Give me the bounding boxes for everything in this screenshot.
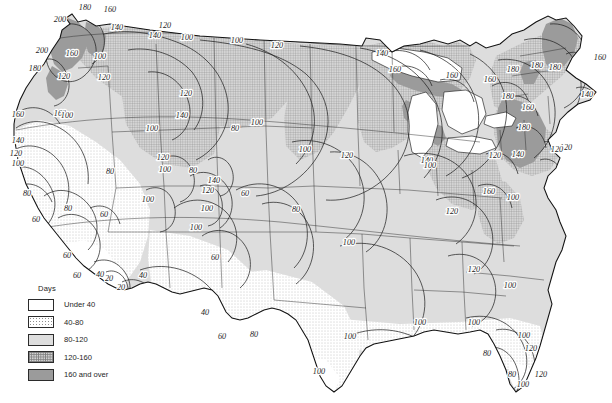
contour-label: 100 [504,281,516,290]
contour-label: 160 [484,75,496,84]
contour-label: 100 [201,204,213,213]
contour-label: 100 [343,238,355,247]
contour-label: 100 [190,223,202,232]
contour-label: 140 [512,150,524,159]
contour-label: 160 [522,103,534,112]
contour-label: 20 [105,274,113,283]
contour-label: 60 [241,189,249,198]
contour-label: 140 [176,111,188,120]
legend-swatch [28,316,54,328]
contour-label: 100 [61,111,73,120]
contour-label: 100 [12,159,24,168]
contour-label: 120 [58,72,70,81]
contour-label: 120 [98,73,110,82]
contour-label: 180 [507,65,519,74]
legend-item: 120-160 [28,350,146,365]
legend-label: 160 and over [64,370,108,379]
legend-item: Under 40 [28,297,146,312]
legend-label: 80-120 [64,335,88,344]
contour-label: 200 [54,15,66,24]
contour-label: 40 [96,270,104,279]
map-figure: 1801801601602002001401401201201401401001… [0,0,612,403]
contour-label: 120 [446,207,458,216]
contour-label: 60 [100,210,108,219]
contour-label: 100 [299,145,311,154]
contour-label: 120 [468,265,480,274]
contour-label: 160 [12,110,24,119]
contour-label: 60 [32,215,40,224]
contour-label: 80 [64,204,72,213]
contour-label: 120 [10,149,22,158]
legend-rows: Under 4040-8080-120120-160160 and over [28,297,146,382]
contour-label: 80 [250,330,258,339]
contour-label: 100 [507,193,519,202]
contour-label: 140 [149,31,161,40]
legend-item: 40-80 [28,315,146,330]
contour-label: 180 [79,3,91,12]
legend-swatch [28,299,54,311]
contour-label: 120 [551,145,563,154]
contour-label: 120 [341,151,353,160]
legend-item: 160 and over [28,367,146,382]
contour-label: 180 [502,92,514,101]
contour-label: 160 [389,65,401,74]
contour-label: 160 [66,49,78,58]
contour-label: 120 [202,186,214,195]
contour-label: 120 [271,41,283,50]
legend-label: 40-80 [64,318,83,327]
contour-label: 140 [581,90,593,99]
contour-label: 60 [63,251,71,260]
legend-label: Under 40 [64,300,95,309]
contour-label: 160 [483,187,495,196]
contour-label: 60 [211,253,219,262]
contour-label: 100 [146,124,158,133]
contour-label: 40 [139,271,147,280]
contour-label: 120 [180,89,192,98]
contour-label: 100 [468,318,480,327]
contour-label: 140 [12,136,24,145]
contour-label: 180 [518,123,530,132]
legend-swatch [28,369,54,381]
contour-label: 60 [218,332,226,341]
contour-label: 80 [483,349,491,358]
legend-swatch [28,351,54,363]
contour-label: 80 [106,167,114,176]
contour-label: 180 [549,63,561,72]
contour-label: 100 [181,33,193,42]
contour-label: 80 [189,166,197,175]
contour-label: 80 [292,205,300,214]
contour-label: 160 [594,53,606,62]
contour-label: 140 [208,176,220,185]
contour-label: 100 [142,195,154,204]
contour-label: 80 [231,124,239,133]
contour-label: 80 [23,189,31,198]
legend: Days Under 4040-8080-120120-160160 and o… [28,284,146,385]
contour-label: 120 [157,153,169,162]
contour-label: 180 [29,64,41,73]
contour-label: 100 [424,161,436,170]
contour-label: 60 [73,271,81,280]
contour-label: 140 [111,23,123,32]
contour-label: 100 [251,118,263,127]
contour-label: 80 [508,370,516,379]
contour-label: 100 [94,52,106,61]
legend-label: 120-160 [64,353,92,362]
contour-label: 140 [376,49,388,58]
contour-label: 200 [36,46,48,55]
contour-label: 100 [344,332,356,341]
contour-label: 100 [518,331,530,340]
contour-label: 100 [159,165,171,174]
contour-label: 120 [525,344,537,353]
contour-label: 120 [535,370,547,379]
contour-label: 120 [489,151,501,160]
legend-title: Days [38,284,146,293]
contour-label: 160 [104,5,116,14]
contour-label: 180 [531,61,543,70]
contour-label: 120 [159,21,171,30]
contour-label: 100 [517,380,529,389]
contour-label: 160 [446,71,458,80]
legend-item: 80-120 [28,332,146,347]
contour-label: 100 [414,318,426,327]
legend-swatch [28,334,54,346]
contour-label: 40 [201,308,209,317]
